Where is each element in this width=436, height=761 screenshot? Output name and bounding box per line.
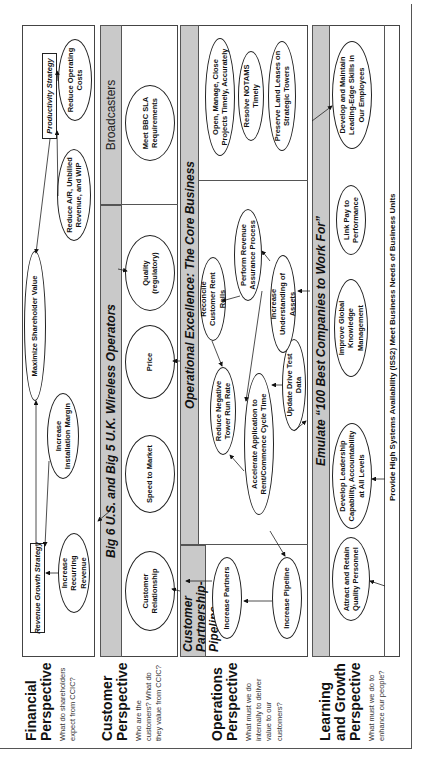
resolve-notams-node: Resolve NOTAMS Timely: [238, 51, 264, 141]
broadcasters-title: Broadcasters: [104, 80, 118, 151]
emulate-title: Emulate “100 Best Companies to Work For”: [314, 216, 328, 466]
develop-leadership-node: Develop Leadership Capability, Accountab…: [332, 423, 372, 529]
customer-question: Who are the customers? What do they valu…: [134, 661, 164, 741]
accelerate-application-node: Accelerate Application to Rent/Commence …: [244, 373, 274, 515]
learning-title: Learningand GrowthPerspective: [318, 661, 363, 741]
iss-divider: [384, 25, 385, 657]
left-border-line: [0, 748, 412, 749]
operational-excellence-title: Operational Excellence: The Core Busines…: [183, 161, 197, 409]
understanding-assets-node: Increase Understanding of Assets: [270, 255, 296, 353]
price-node: Price: [125, 325, 175, 399]
revenue-growth-strategy-box: Revenue Growth Strategy: [30, 543, 45, 633]
customer-perspective-label: CustomerPerspective Who are the customer…: [100, 661, 165, 741]
financial-question: What do shareholders expect from CCIC?: [58, 661, 78, 741]
reconcile-rent-rolls-node: Reconcile Customer Rent Rolls: [200, 257, 226, 341]
operational-excellence-header: Operational Excellence: The Core Busines…: [180, 25, 199, 545]
reduce-tower-run-rate-node: Reduce Negative Tower Run Rate: [210, 367, 236, 455]
emulate-header: Emulate “100 Best Companies to Work For”: [312, 25, 330, 657]
operations-split-line: [199, 544, 308, 545]
update-drive-test-data-node: Update Drive Test Data: [282, 339, 306, 431]
iss-text: Provide High Systems Availability (ISS2)…: [388, 194, 397, 502]
link-pay-node: Link Pay to Performance: [336, 185, 366, 255]
customer-partnership-header: Customer Partnership-Pipeline: [180, 545, 206, 657]
increase-pipeline-node: Increase Pipeline: [272, 557, 302, 639]
learning-perspective-label: Learningand GrowthPerspective What must …: [318, 661, 388, 741]
increase-recurring-revenue-node: Increase Recurring Revenue: [58, 533, 90, 613]
increase-installation-margin-node: Increase Installation Margin: [47, 393, 79, 479]
knowledge-management-node: Improve Global Knowledge Management: [334, 279, 368, 377]
increase-partners-node: Increase Partners: [212, 557, 242, 639]
strategy-map: FinancialPerspective What do shareholder…: [0, 0, 436, 761]
wireless-operators-header: Big 6 U.S. and Big 5 U.K. Wireless Opera…: [100, 205, 122, 657]
reduce-operating-costs-node: Reduce Operating Costs: [58, 39, 92, 121]
reduce-ar-node: Reduce A/R, Unbilled Revenue, and WIP: [57, 149, 91, 241]
operations-title: OperationsPerspective: [210, 661, 240, 741]
revenue-assurance-node: Perform Revenue Assurance Process: [234, 209, 262, 301]
develop-skills-node: Develop and Maintain Leading-Edge Skills…: [332, 41, 372, 149]
wireless-operators-title: Big 6 U.S. and Big 5 U.K. Wireless Opera…: [104, 304, 118, 558]
operations-question: What must we do internally to deliver va…: [244, 661, 285, 741]
bottom-border-line: [411, 4, 412, 749]
customer-relationship-node: Customer Relationship: [125, 551, 175, 631]
customer-title: CustomerPerspective: [100, 661, 130, 741]
broadcasters-header: Broadcasters: [100, 25, 122, 205]
financial-title: FinancialPerspective: [24, 661, 54, 741]
learning-question: What must we do to enhance our people?: [367, 661, 387, 741]
quality-node: Quality (regulatory): [125, 235, 175, 311]
meet-bbc-sla-node: Meet BBC SLA Requirements: [125, 85, 175, 161]
open-manage-close-node: Open, Manage, Close Projects Timely, Acc…: [205, 38, 235, 156]
maximize-shareholder-value-node: Maximize Shareholder Value: [24, 251, 46, 401]
preserve-land-leases-node: Preserve Land Leases on Strategic Towers: [268, 41, 296, 151]
operations-perspective-label: OperationsPerspective What must we do in…: [210, 661, 285, 741]
financial-perspective-label: FinancialPerspective What do shareholder…: [24, 661, 78, 741]
customer-split-line: [122, 204, 178, 205]
productivity-strategy-box: Productivity Strategy: [42, 53, 57, 139]
speed-to-market-node: Speed to Market: [125, 435, 175, 513]
attract-retain-node: Attract and Retain Quality Personnel: [332, 537, 370, 621]
operations-right-split-line: [199, 180, 308, 181]
